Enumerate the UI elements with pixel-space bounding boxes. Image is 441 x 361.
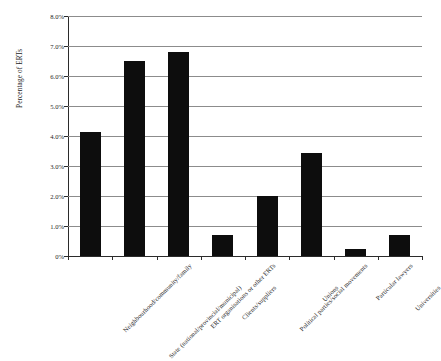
y-tick-mark [64, 46, 68, 47]
x-axis-label: Neighbourhood/community/family [122, 262, 193, 333]
x-tick-mark [201, 256, 202, 260]
x-tick-mark [334, 256, 335, 260]
y-tick-label: 0% [36, 253, 64, 260]
y-tick-label: 1.0% [36, 223, 64, 230]
bar [168, 52, 189, 256]
y-tick-label: 2.0% [36, 193, 64, 200]
bar [257, 196, 278, 256]
y-tick-label: 8.0% [36, 13, 64, 20]
y-tick-label: 4.0% [36, 133, 64, 140]
x-tick-mark [422, 256, 423, 260]
y-tick-label: 3.0% [36, 163, 64, 170]
y-tick-mark [64, 226, 68, 227]
bar [212, 235, 233, 256]
y-tick-label: 6.0% [36, 73, 64, 80]
plot-area [68, 16, 422, 256]
x-axis-label: Particular lawyers [374, 262, 414, 302]
x-axis-label: Universities [413, 284, 441, 312]
y-axis-title: Percentage of ERTs [16, 0, 24, 108]
y-tick-label: 7.0% [36, 43, 64, 50]
gridline [68, 46, 422, 47]
gridline [68, 16, 422, 17]
x-axis-label: State (national/provincial/municipal) [168, 284, 243, 359]
gridline [68, 226, 422, 227]
x-tick-mark [289, 256, 290, 260]
bar [301, 153, 322, 257]
gridline [68, 196, 422, 197]
bar [124, 61, 145, 256]
y-tick-mark [64, 166, 68, 167]
y-tick-mark [64, 76, 68, 77]
bar [345, 249, 366, 257]
y-tick-mark [64, 136, 68, 137]
x-axis-label: Political parties/social movements [298, 262, 368, 332]
x-axis-label: Clients/suppliers [240, 284, 277, 321]
bar [389, 235, 410, 256]
gridline [68, 76, 422, 77]
x-tick-mark [112, 256, 113, 260]
y-tick-mark [64, 196, 68, 197]
bar [80, 132, 101, 257]
x-tick-mark [157, 256, 158, 260]
x-tick-mark [245, 256, 246, 260]
x-tick-mark [378, 256, 379, 260]
x-tick-mark [68, 256, 69, 260]
gridline [68, 166, 422, 167]
x-axis-label: ERT organisations or other ERTs [209, 262, 277, 330]
gridline [68, 106, 422, 107]
y-tick-mark [64, 106, 68, 107]
y-tick-mark [64, 16, 68, 17]
x-axis-label: Unions [321, 284, 340, 303]
y-tick-mark [64, 256, 68, 257]
y-tick-label-group: 0%1.0%2.0%3.0%4.0%5.0%6.0%7.0%8.0% [34, 16, 64, 256]
gridline [68, 136, 422, 137]
y-tick-label: 5.0% [36, 103, 64, 110]
